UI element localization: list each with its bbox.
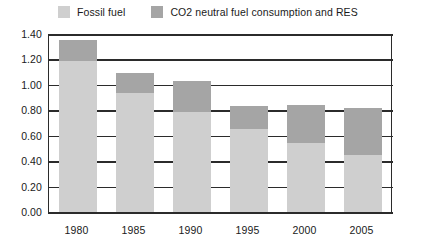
bar-segment-fossil-fuel[interactable] [230,129,268,212]
chart-legend: Fossil fuel CO2 neutral fuel consumption… [0,0,435,24]
bar-group[interactable] [287,34,325,212]
x-axis: 198019851990199520002005 [48,216,390,242]
x-axis-tick-label: 1980 [58,216,96,236]
bar-segment-fossil-fuel[interactable] [59,61,97,212]
bar-group[interactable] [116,34,154,212]
legend-swatch-icon-fossil-fuel [58,6,70,18]
plot-area [48,34,392,212]
y-axis-tick-label: 1.20 [21,54,42,65]
gridline [48,212,393,214]
bar-group[interactable] [173,34,211,212]
y-axis-tick-label: 0.00 [21,207,42,218]
bar-segment-fossil-fuel[interactable] [116,93,154,213]
bar-group[interactable] [344,34,382,212]
bar-segment-co2-neutral[interactable] [344,108,382,155]
bar-segment-co2-neutral[interactable] [173,81,211,112]
y-axis-tick-label: 1.00 [21,79,42,90]
x-axis-tick-label: 1995 [229,216,267,236]
bar-segment-co2-neutral[interactable] [116,73,154,92]
bar-segment-fossil-fuel[interactable] [344,155,382,212]
bar-segment-co2-neutral[interactable] [287,105,325,143]
y-axis-tick-label: 0.40 [21,156,42,167]
legend-entry-co2-neutral: CO2 neutral fuel consumption and RES [151,6,357,18]
y-axis-tick-label: 0.60 [21,130,42,141]
bar-group[interactable] [59,34,97,212]
x-axis-tick-label: 2005 [343,216,381,236]
x-axis-tick-label: 1985 [115,216,153,236]
bar-group[interactable] [230,34,268,212]
bar-series-container [49,34,391,212]
bar-segment-co2-neutral[interactable] [230,106,268,129]
legend-swatch-icon-co2-neutral [151,6,163,18]
bar-segment-fossil-fuel[interactable] [287,143,325,212]
bar-chart: 0.000.200.400.600.801.001.201.40 1980198… [0,24,435,242]
legend-label-fossil-fuel: Fossil fuel [77,6,125,18]
bar-segment-fossil-fuel[interactable] [173,112,211,212]
x-axis-tick-label: 2000 [286,216,324,236]
x-axis-tick-label: 1990 [172,216,210,236]
legend-label-co2-neutral: CO2 neutral fuel consumption and RES [170,6,357,18]
bar-segment-co2-neutral[interactable] [59,40,97,60]
y-axis-tick-label: 1.40 [21,29,42,40]
y-axis-tick-label: 0.80 [21,105,42,116]
y-axis: 0.000.200.400.600.801.001.201.40 [0,24,47,218]
y-axis-tick-label: 0.20 [21,181,42,192]
legend-entry-fossil-fuel: Fossil fuel [58,6,125,18]
